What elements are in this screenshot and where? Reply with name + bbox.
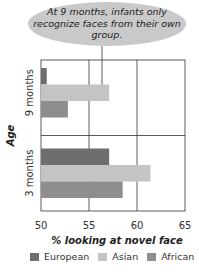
legend-item-european: European bbox=[30, 251, 89, 262]
bar-european-9-months bbox=[41, 68, 47, 85]
category-label: 9 months bbox=[24, 69, 35, 116]
legend: EuropeanAsianAfrican bbox=[30, 251, 199, 263]
bar-chart: 9 months3 months50556065% looking at nov… bbox=[0, 0, 199, 275]
bar-asian-9-months bbox=[41, 85, 109, 102]
bar-european-3-months bbox=[41, 149, 109, 166]
x-tick-label: 55 bbox=[83, 220, 96, 231]
legend-swatch bbox=[98, 253, 107, 261]
legend-label: African bbox=[161, 251, 194, 262]
y-axis-title: Age bbox=[5, 124, 16, 147]
legend-label: Asian bbox=[112, 251, 138, 262]
legend-item-asian: Asian bbox=[98, 251, 138, 262]
x-tick-label: 65 bbox=[179, 220, 192, 231]
bar-african-3-months bbox=[41, 182, 123, 199]
x-axis-title: % looking at novel face bbox=[51, 235, 183, 246]
x-tick-label: 50 bbox=[35, 220, 48, 231]
legend-label: European bbox=[44, 251, 89, 262]
legend-item-african: African bbox=[147, 251, 194, 262]
category-label: 3 months bbox=[24, 150, 35, 197]
bar-asian-3-months bbox=[41, 165, 150, 182]
bar-african-9-months bbox=[41, 101, 68, 118]
legend-swatch bbox=[30, 253, 39, 261]
legend-swatch bbox=[147, 253, 156, 261]
x-tick-label: 60 bbox=[131, 220, 144, 231]
